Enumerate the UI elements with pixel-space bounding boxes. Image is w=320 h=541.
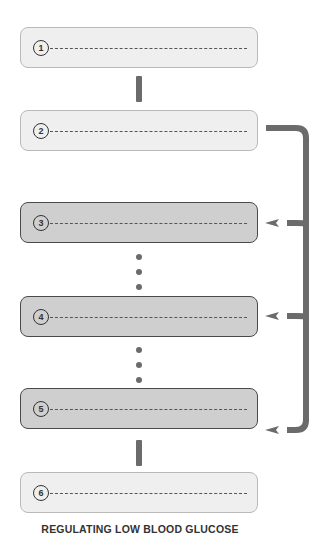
feedback-bracket-arrows [0, 0, 320, 541]
diagram-title: REGULATING LOW BLOOD GLUCOSE [0, 523, 280, 535]
